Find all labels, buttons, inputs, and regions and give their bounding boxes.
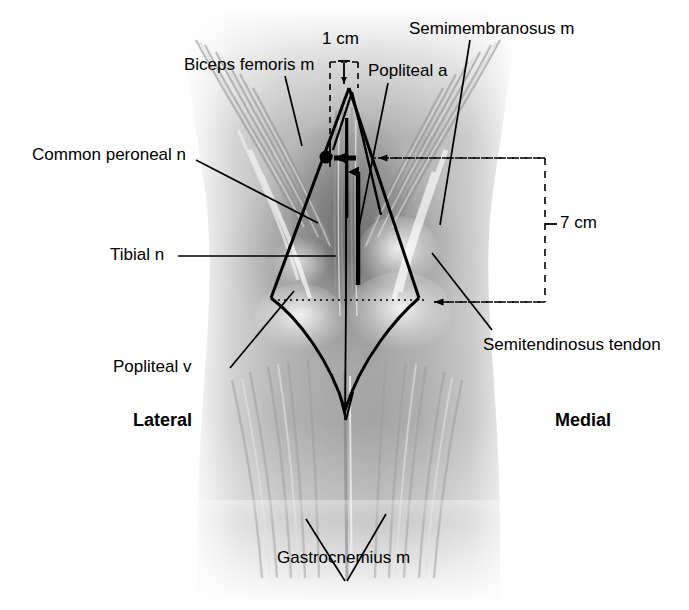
anatomy-figure: Biceps femoris m Common peroneal n Tibia… <box>0 0 689 610</box>
label-lateral: Lateral <box>133 411 192 429</box>
label-medial: Medial <box>555 411 611 429</box>
label-semimembranosus: Semimembranosus m <box>409 20 574 37</box>
label-tibial-nerve: Tibial n <box>110 246 164 263</box>
label-gastrocnemius: Gastrocnemius m <box>277 549 410 566</box>
measurement-1cm: 1 cm <box>322 30 359 47</box>
label-popliteal-vein: Popliteal v <box>113 358 191 375</box>
leg-illustration <box>180 8 516 610</box>
dot-marker-common-peroneal <box>320 151 333 164</box>
label-common-peroneal-nerve: Common peroneal n <box>32 146 186 163</box>
label-semitendinosus-tendon: Semitendinosus tendon <box>483 336 661 353</box>
measurement-7cm: 7 cm <box>560 214 597 231</box>
label-popliteal-artery: Popliteal a <box>368 62 447 79</box>
label-biceps-femoris: Biceps femoris m <box>184 56 314 73</box>
anatomy-illustration <box>0 0 689 610</box>
